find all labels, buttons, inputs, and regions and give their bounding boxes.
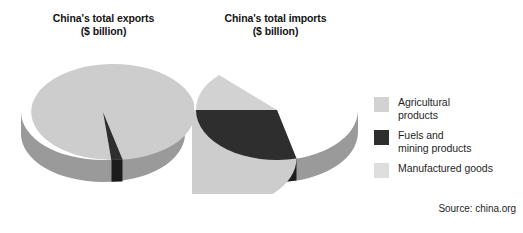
legend: Agricultural products Fuels and mining p… xyxy=(374,96,520,178)
legend-swatch-agricultural xyxy=(374,97,389,112)
legend-swatch-fuels xyxy=(374,130,389,145)
pie-imports-top-agricultural xyxy=(196,75,277,110)
chart-title-imports: China's total imports ($ billion) xyxy=(188,12,363,38)
legend-label-agricultural: Agricultural products xyxy=(398,96,450,121)
legend-label-manufactured: Manufactured goods xyxy=(398,162,493,175)
pie-exports-svg xyxy=(14,56,194,196)
pie-imports-svg xyxy=(192,54,367,194)
chart-canvas: China's total exports ($ billion) China'… xyxy=(0,0,523,233)
pie-exports-side-fuels xyxy=(112,160,123,182)
source-note: Source: china.org xyxy=(330,203,516,214)
chart-title-exports: China's total exports ($ billion) xyxy=(16,12,191,38)
pie-chart-exports xyxy=(14,56,194,196)
legend-label-fuels: Fuels and mining products xyxy=(398,129,471,154)
legend-item-fuels[interactable]: Fuels and mining products xyxy=(374,129,520,154)
legend-item-agricultural[interactable]: Agricultural products xyxy=(374,96,520,121)
pie-chart-imports xyxy=(192,54,367,194)
legend-item-manufactured[interactable]: Manufactured goods xyxy=(374,162,520,178)
legend-swatch-manufactured xyxy=(374,163,389,178)
